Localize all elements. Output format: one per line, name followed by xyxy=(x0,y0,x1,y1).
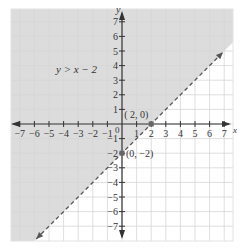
y-tick-label: 6 xyxy=(113,31,118,42)
inequality-graph: −7−6−5−4−3−2−112345677654321−1−2−3−4−5−6… xyxy=(0,0,242,249)
x-tick-label: 3 xyxy=(163,128,168,139)
x-tick-label: −7 xyxy=(14,128,25,139)
point-marker xyxy=(149,122,154,127)
x-tick-label: −2 xyxy=(87,128,98,139)
point-marker xyxy=(120,151,125,156)
y-tick-label: −5 xyxy=(107,192,118,203)
y-tick-label: −4 xyxy=(107,177,118,188)
y-tick-label: −3 xyxy=(107,162,118,173)
x-axis-label: x xyxy=(232,125,237,135)
y-tick-label: 1 xyxy=(113,104,118,115)
y-tick-label: −6 xyxy=(107,206,118,217)
x-tick-label: −4 xyxy=(58,128,69,139)
x-tick-label: 5 xyxy=(193,128,198,139)
y-axis-label: y xyxy=(115,4,121,15)
y-tick-label: 5 xyxy=(113,46,118,57)
x-tick-label: −5 xyxy=(44,128,55,139)
x-tick-label: 7 xyxy=(222,128,227,139)
y-tick-label: −7 xyxy=(107,221,118,232)
y-tick-label: 2 xyxy=(113,89,118,100)
x-tick-label: 1 xyxy=(134,128,139,139)
x-tick-label: −3 xyxy=(73,128,84,139)
inequality-label: y > x − 2 xyxy=(55,63,98,75)
x-tick-label: −6 xyxy=(29,128,40,139)
point-label: (0, −2) xyxy=(126,148,153,160)
x-tick-label: 4 xyxy=(178,128,183,139)
y-tick-label: 3 xyxy=(113,75,118,86)
y-tick-label: −2 xyxy=(107,148,118,159)
x-tick-label: 6 xyxy=(207,128,212,139)
origin-label: 0 xyxy=(115,125,120,135)
y-tick-label: 7 xyxy=(113,16,118,27)
y-tick-label: 4 xyxy=(113,60,118,71)
x-tick-label: 2 xyxy=(149,128,154,139)
point-label: ( 2, 0) xyxy=(124,109,148,121)
